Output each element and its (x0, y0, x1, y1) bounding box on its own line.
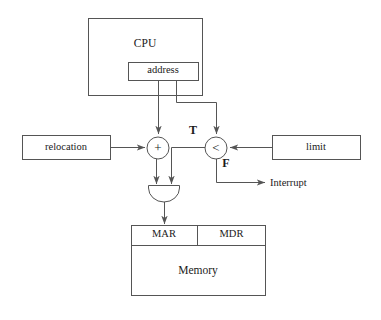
cpu-box (89, 19, 203, 96)
limit-box (273, 136, 361, 160)
relocation-box (23, 136, 111, 160)
address-register-box (129, 63, 199, 81)
diagram-graphics (0, 0, 381, 320)
diagram-canvas: CPU address relocation limit + < T F Int… (0, 0, 381, 320)
memory-box (132, 226, 266, 296)
edge-comparator-false-to-interrupt (217, 159, 266, 183)
comparator-circle (205, 137, 227, 159)
adder-circle (147, 137, 169, 159)
edge-comparator-true-to-gate (172, 148, 206, 185)
and-gate-shape (149, 186, 180, 203)
